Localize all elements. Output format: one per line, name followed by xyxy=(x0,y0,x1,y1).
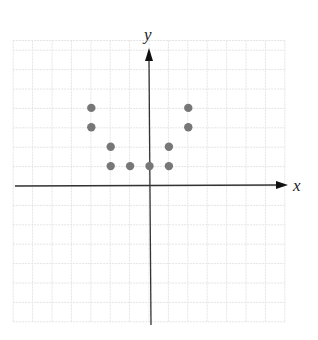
data-point xyxy=(145,162,153,170)
data-point xyxy=(107,143,115,151)
data-point xyxy=(165,162,173,170)
data-point xyxy=(184,104,192,112)
x-axis-label: x xyxy=(292,176,301,195)
data-point xyxy=(87,123,95,131)
data-point xyxy=(126,162,134,170)
coordinate-plane: x y xyxy=(0,0,318,340)
data-point xyxy=(165,143,173,151)
data-points xyxy=(87,104,192,171)
data-point xyxy=(184,123,192,131)
x-axis-arrow-icon xyxy=(276,181,288,189)
data-point xyxy=(87,104,95,112)
y-axis-label: y xyxy=(142,25,152,44)
data-point xyxy=(107,162,115,170)
